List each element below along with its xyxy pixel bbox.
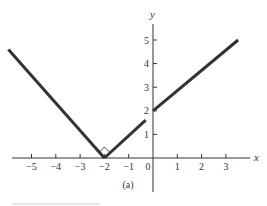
x-tick-label: 2 bbox=[199, 161, 204, 172]
graph-segment bbox=[8, 49, 104, 158]
x-tick-label: −4 bbox=[50, 161, 61, 172]
y-tick-label: 1 bbox=[144, 129, 149, 140]
graph-segment bbox=[153, 40, 238, 111]
x-tick-label: 0 bbox=[146, 161, 151, 172]
x-axis-label: x bbox=[253, 151, 259, 163]
graph-segment bbox=[104, 120, 145, 158]
y-tick-label: 3 bbox=[144, 82, 149, 93]
y-tick-label: 2 bbox=[144, 105, 149, 116]
y-tick-label: 5 bbox=[144, 35, 149, 46]
x-tick-label: −2 bbox=[99, 161, 110, 172]
function-graph: xy−5−4−3−2−1012312345(a) bbox=[0, 0, 267, 206]
x-tick-label: −3 bbox=[75, 161, 86, 172]
y-tick-label: 4 bbox=[144, 58, 149, 69]
faint-caption-remnant bbox=[12, 203, 100, 205]
x-tick-label: −1 bbox=[123, 161, 134, 172]
y-axis-label: y bbox=[149, 8, 155, 20]
right-angle-marker bbox=[99, 147, 109, 152]
figure-caption: (a) bbox=[122, 179, 133, 191]
x-tick-label: 1 bbox=[175, 161, 180, 172]
x-tick-label: −5 bbox=[26, 161, 37, 172]
x-tick-label: 3 bbox=[223, 161, 228, 172]
